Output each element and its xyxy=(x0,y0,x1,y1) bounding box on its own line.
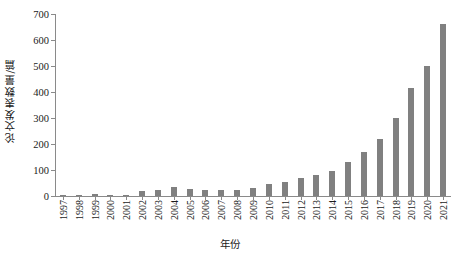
x-axis-tick-label: 1997 xyxy=(58,200,69,220)
x-axis-tick-label: 2010 xyxy=(264,200,275,220)
x-axis-tick-label: 2015 xyxy=(343,200,354,220)
bar xyxy=(313,175,319,196)
bar xyxy=(171,187,177,196)
x-axis-tick-label: 2002 xyxy=(137,200,148,220)
y-axis-tick-label: 100 xyxy=(33,165,49,176)
x-axis-tick-label: 2006 xyxy=(200,200,211,220)
x-axis-tick-label: 2003 xyxy=(153,200,164,220)
x-axis-tick-labels: 1997199819992000200120022003200420052006… xyxy=(55,200,451,236)
x-axis-tick-label: 1998 xyxy=(74,200,85,220)
y-axis-tick-mark xyxy=(51,118,55,119)
x-axis-tick-label: 2020 xyxy=(422,200,433,220)
y-axis-tick-label: 300 xyxy=(33,113,49,124)
x-axis-tick-label: 2018 xyxy=(391,200,402,220)
y-axis-tick-mark xyxy=(51,40,55,41)
bar xyxy=(408,88,414,196)
y-axis-title-text: 论文发表数量/篇 xyxy=(2,58,17,143)
bar xyxy=(298,178,304,196)
y-axis-tick-label: 700 xyxy=(33,9,49,20)
x-axis-tick-label: 2000 xyxy=(105,200,116,220)
plot-area xyxy=(55,14,451,196)
bar xyxy=(187,189,193,196)
x-axis-title: 年份 xyxy=(0,236,460,251)
y-axis-tick-label: 0 xyxy=(44,191,49,202)
x-axis-tick-label: 2019 xyxy=(406,200,417,220)
x-axis-tick-label: 2005 xyxy=(185,200,196,220)
bar xyxy=(250,188,256,196)
bar xyxy=(282,182,288,196)
bar xyxy=(440,24,446,196)
x-axis-tick-label: 2004 xyxy=(169,200,180,220)
bar xyxy=(266,184,272,196)
y-axis-tick-mark xyxy=(51,170,55,171)
bar-chart: 论文发表数量/篇 0100200300400500600700 19971998… xyxy=(0,0,460,255)
x-axis-tick-label: 2014 xyxy=(327,200,338,220)
y-axis-title: 论文发表数量/篇 xyxy=(0,0,18,200)
x-axis-tick-label: 2001 xyxy=(121,200,132,220)
y-axis-tick-label: 500 xyxy=(33,61,49,72)
bar xyxy=(329,171,335,196)
x-axis-tick-label: 2012 xyxy=(296,200,307,220)
y-axis-tick-labels: 0100200300400500600700 xyxy=(18,0,52,210)
x-axis-tick-label: 1999 xyxy=(90,200,101,220)
x-axis-tick-label: 2009 xyxy=(248,200,259,220)
x-axis-tick-label: 2017 xyxy=(375,200,386,220)
bar xyxy=(377,139,383,196)
x-axis-tick-label: 2013 xyxy=(311,200,322,220)
y-axis-tick-mark xyxy=(51,144,55,145)
bar xyxy=(393,118,399,196)
y-axis-tick-label: 400 xyxy=(33,87,49,98)
y-axis-tick-mark xyxy=(51,14,55,15)
bar xyxy=(345,162,351,196)
y-axis-tick-label: 200 xyxy=(33,139,49,150)
y-axis-tick-mark xyxy=(51,66,55,67)
x-axis-tick-label: 2007 xyxy=(216,200,227,220)
y-axis-tick-mark xyxy=(51,92,55,93)
bar xyxy=(361,152,367,196)
x-axis-tick-label: 2021 xyxy=(438,200,449,220)
bar xyxy=(424,66,430,196)
y-axis-tick-mark xyxy=(51,196,55,197)
x-axis-tick-label: 2011 xyxy=(280,200,291,220)
y-axis-tick-label: 600 xyxy=(33,35,49,46)
bars-layer xyxy=(55,14,451,196)
x-axis-tick-label: 2008 xyxy=(232,200,243,220)
x-axis-tick-label: 2016 xyxy=(359,200,370,220)
